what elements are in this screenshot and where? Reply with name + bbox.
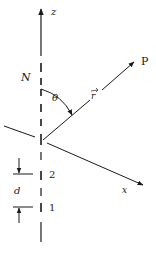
y-axis-back (4, 126, 35, 137)
antenna-array-diagram: z N θ r P x d 2 1 (0, 0, 156, 255)
r-vector-label: r (91, 91, 96, 101)
point-p-label: P (141, 55, 149, 68)
element-2-label: 2 (49, 169, 55, 180)
z-axis-label: z (50, 6, 57, 17)
x-axis-label: x (122, 185, 127, 195)
element-1-label: 1 (49, 202, 55, 213)
element-n-label: N (20, 71, 31, 84)
theta-label: θ (52, 92, 58, 103)
spacing-d-label: d (14, 185, 20, 196)
x-axis (47, 143, 143, 185)
